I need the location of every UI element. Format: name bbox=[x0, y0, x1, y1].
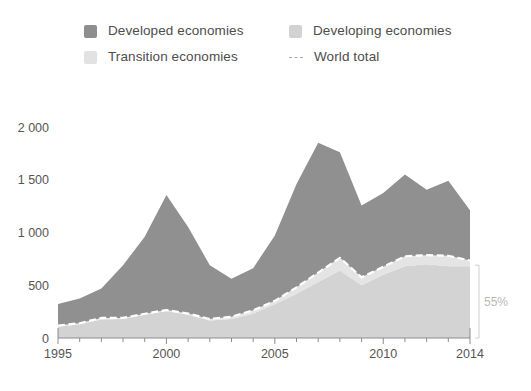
chart-plot-area: 05001 0001 5002 000 19952000200520102014… bbox=[0, 0, 531, 391]
x-tick-label: 1995 bbox=[44, 347, 72, 361]
chart-figure: Developed economies Developing economies… bbox=[0, 0, 531, 391]
stacked-area-chart-svg: 05001 0001 5002 000 19952000200520102014… bbox=[0, 0, 531, 391]
share-bracket-icon bbox=[475, 265, 479, 338]
y-axis-tick-labels: 05001 0001 5002 000 bbox=[18, 121, 49, 346]
y-tick-label: 500 bbox=[28, 279, 49, 293]
x-tick-label: 2005 bbox=[261, 347, 289, 361]
share-bracket-label: 55% bbox=[484, 295, 508, 309]
area-series-group bbox=[58, 143, 470, 338]
y-tick-label: 2 000 bbox=[18, 121, 49, 135]
x-tick-label: 2000 bbox=[153, 347, 181, 361]
x-tick-label: 2010 bbox=[369, 347, 397, 361]
y-tick-label: 1 000 bbox=[18, 226, 49, 240]
chart-annotations: 55% bbox=[475, 265, 508, 338]
y-tick-label: 0 bbox=[42, 332, 49, 346]
x-axis-tick-labels: 19952000200520102014 bbox=[44, 347, 484, 361]
y-tick-label: 1 500 bbox=[18, 173, 49, 187]
x-tick-label: 2014 bbox=[456, 347, 484, 361]
